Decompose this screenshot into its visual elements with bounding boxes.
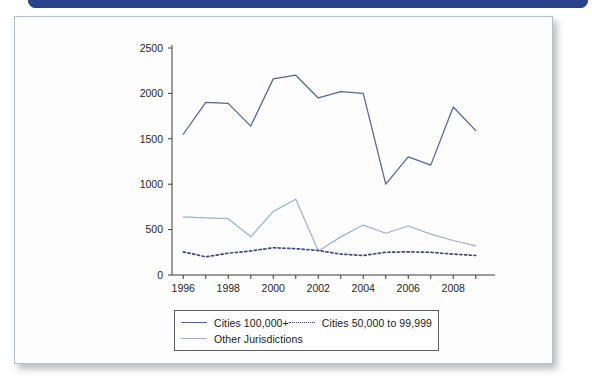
legend-entry-cities-50000-to-99999: Cities 50,000 to 99,999 (289, 317, 432, 329)
y-tick-label: 500 (145, 223, 163, 235)
y-tick-label: 2000 (140, 87, 164, 99)
x-tick-label: 1998 (217, 282, 241, 294)
line-chart-svg: 05001000150020002500 1996199820002002200… (15, 17, 554, 317)
legend-swatch-dotted-icon (289, 318, 315, 328)
chart-plot-area: 05001000150020002500 1996199820002002200… (15, 17, 554, 317)
chart-series-group (183, 75, 476, 257)
top-banner-edge (28, 0, 588, 8)
top-blue-banner (28, 0, 588, 8)
chart-legend: Cities 100,000+ Cities 50,000 to 99,999 … (174, 310, 439, 351)
legend-entry-other-jurisdictions: Other Jurisdictions (181, 333, 313, 345)
y-axis: 05001000150020002500 (140, 42, 172, 281)
legend-swatch-solid-light-icon (181, 334, 207, 344)
series-line (183, 248, 476, 257)
x-tick-label: 2006 (397, 282, 421, 294)
x-tick-label: 1996 (172, 282, 196, 294)
legend-label-other-jurisdictions: Other Jurisdictions (214, 333, 303, 345)
legend-row-2: Other Jurisdictions (181, 331, 432, 347)
legend-entry-cities-100000-plus: Cities 100,000+ (181, 317, 289, 329)
legend-label-cities-50000-to-99999: Cities 50,000 to 99,999 (322, 317, 432, 329)
x-tick-label: 2008 (442, 282, 466, 294)
legend-label-cities-100000-plus: Cities 100,000+ (214, 317, 289, 329)
legend-swatch-solid-dark-icon (181, 318, 207, 328)
x-tick-label: 2004 (352, 282, 376, 294)
x-axis: 1996199820002002200420062008 (172, 275, 495, 294)
y-tick-label: 2500 (140, 42, 164, 54)
y-tick-label: 1500 (140, 133, 164, 145)
series-line (183, 75, 476, 184)
x-tick-label: 2000 (262, 282, 286, 294)
y-tick-label: 0 (157, 269, 163, 281)
y-tick-label: 1000 (140, 178, 164, 190)
legend-row-1: Cities 100,000+ Cities 50,000 to 99,999 (181, 315, 432, 331)
figure-panel: 05001000150020002500 1996199820002002200… (14, 16, 553, 364)
x-tick-label: 2002 (307, 282, 331, 294)
series-line (183, 199, 476, 251)
